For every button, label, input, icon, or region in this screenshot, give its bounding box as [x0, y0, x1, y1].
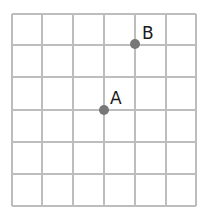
point-a-label: A: [110, 88, 122, 108]
points: A B: [99, 23, 154, 115]
point-b: [130, 39, 140, 49]
point-b-label: B: [142, 23, 154, 43]
point-a: [99, 105, 109, 115]
coordinate-grid: A B: [0, 0, 200, 208]
